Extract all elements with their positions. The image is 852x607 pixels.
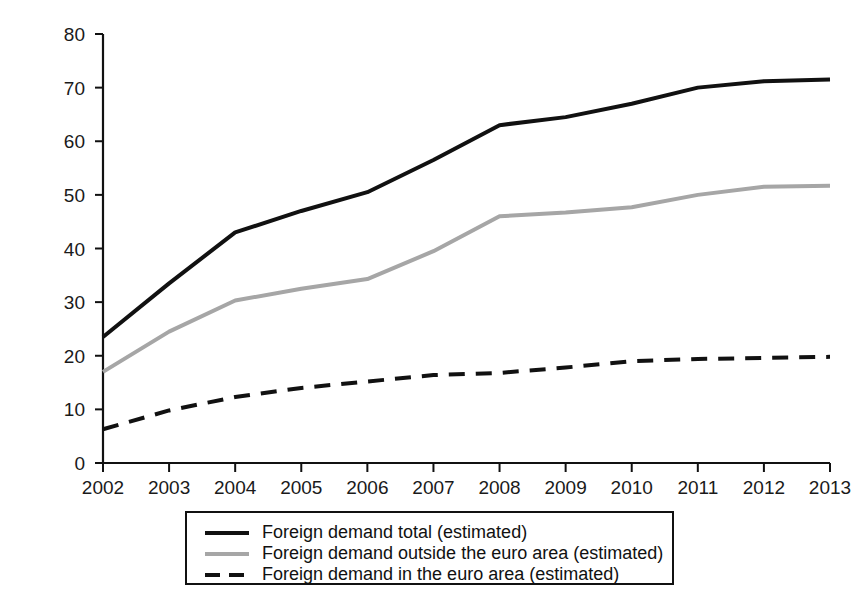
y-tick-label: 60 [64,131,85,152]
y-tick-label: 10 [64,399,85,420]
x-tick-label: 2005 [280,477,322,498]
series-line-2 [103,186,830,372]
x-tick-label: 2009 [544,477,586,498]
legend-label-3: Foreign demand in the euro area (estimat… [262,564,619,584]
x-tick-label: 2012 [743,477,785,498]
x-tick-label: 2006 [346,477,388,498]
y-tick-label: 0 [74,453,85,474]
y-tick-label: 80 [64,24,85,45]
y-tick-labels: 01020304050607080 [64,24,85,474]
x-tick-label: 2011 [677,477,718,498]
legend-label-2: Foreign demand outside the euro area (es… [262,543,663,563]
series-line-1 [103,80,830,337]
y-tick-label: 70 [64,78,85,99]
y-tick-marks [95,34,103,463]
x-tick-label: 2007 [412,477,454,498]
x-tick-label: 2010 [611,477,653,498]
x-tick-label: 2004 [214,477,257,498]
chart-figure: 01020304050607080 2002200320042005200620… [0,0,852,607]
line-chart-canvas: 01020304050607080 2002200320042005200620… [0,0,852,607]
y-tick-label: 30 [64,292,85,313]
x-tick-label: 2008 [478,477,520,498]
chart-legend: Foreign demand total (estimated)Foreign … [186,512,673,584]
x-tick-label: 2013 [809,477,851,498]
series-line-3 [103,357,830,429]
x-tick-marks [103,463,830,472]
x-tick-label: 2002 [82,477,124,498]
y-tick-label: 50 [64,185,85,206]
data-series-group [103,80,830,430]
x-tick-labels: 2002200320042005200620072008200920102011… [82,477,851,498]
y-tick-label: 20 [64,346,85,367]
y-tick-label: 40 [64,239,85,260]
x-tick-label: 2003 [148,477,190,498]
legend-label-1: Foreign demand total (estimated) [262,522,527,542]
